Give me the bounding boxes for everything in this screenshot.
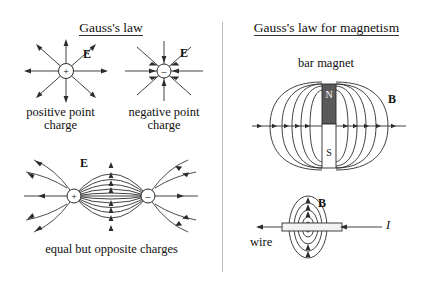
positive-charge-symbol: + [63,66,69,77]
left-panel-gauss-law: Gauss's law + [0,0,222,285]
north-pole-label: N [325,89,332,100]
current-label: I [386,218,390,233]
dipole-negative-symbol: – [145,191,152,202]
bar-magnet-heading: bar magnet [246,57,406,70]
magnetic-field-label-bar-magnet: B [388,92,396,107]
right-panel-title-text: Gauss's law for magnetism [254,20,399,36]
negative-charge-symbol: – [161,66,168,77]
wire-body [282,223,342,231]
right-panel-title: Gauss's law for magnetism [222,20,431,36]
wire-label: wire [250,235,272,250]
bar-magnet-diagram: N S [244,72,414,180]
positive-point-charge-caption: positive point charge [8,106,113,132]
electric-field-label-dipole: E [80,156,88,171]
physics-diagram-figure: Gauss's law + [0,0,431,285]
magnetic-field-label-wire: B [318,196,326,211]
electric-field-label-positive: E [83,47,91,62]
electric-field-label-negative: E [180,46,188,61]
electric-dipole-caption: equal but opposite charges [14,243,209,256]
dipole-positive-symbol: + [71,191,77,202]
negative-point-charge-caption: negative point charge [110,106,218,132]
dipole-field-lines [24,160,198,232]
right-panel-gauss-law-magnetism: Gauss's law for magnetism bar magnet [222,0,431,285]
south-pole-label: S [326,147,332,158]
positive-point-charge-diagram: + [18,38,114,104]
left-panel-title-text: Gauss's law [79,20,143,36]
magnet-south-pole [322,124,336,168]
electric-dipole-diagram: + – [12,152,210,240]
left-panel-title: Gauss's law [0,20,222,36]
negative-point-charge-diagram: – [117,38,211,104]
